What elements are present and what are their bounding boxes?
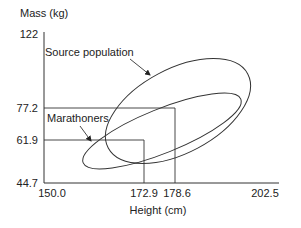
marathoners-label: Marathoners [47, 112, 109, 124]
y-axis-label: Mass (kg) [20, 7, 68, 19]
marathoners-arrow-icon [80, 126, 91, 141]
ellipse-chart: Mass (kg) Height (cm) 122 77.2 61.9 44.7… [0, 0, 301, 228]
source-population-ellipse [89, 37, 268, 185]
x-tick-150: 150.0 [38, 187, 66, 199]
source-arrow-icon [130, 59, 150, 75]
y-tick-77-2: 77.2 [17, 102, 38, 114]
y-tick-122: 122 [20, 28, 38, 40]
x-tick-172-9: 172.9 [130, 187, 158, 199]
marathoners-mean-guide [44, 140, 144, 183]
x-tick-202-5: 202.5 [251, 187, 279, 199]
y-tick-44-7: 44.7 [17, 177, 38, 189]
source-population-label: Source population [45, 46, 134, 58]
x-axis-label: Height (cm) [130, 204, 187, 216]
y-tick-61-9: 61.9 [17, 134, 38, 146]
x-tick-178-6: 178.6 [163, 187, 191, 199]
